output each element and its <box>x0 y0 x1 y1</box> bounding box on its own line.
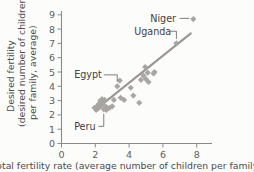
x-tick-8: 8 <box>194 144 200 161</box>
data-point-marker <box>130 92 136 98</box>
annotation-egypt: Egypt <box>74 69 117 82</box>
x-tick-label: 4 <box>126 149 132 160</box>
annotation-label: Peru <box>74 121 95 132</box>
y-tick-4: 4 <box>49 81 62 92</box>
y-tick-label: 2 <box>49 109 55 120</box>
annotation-label: Egypt <box>74 69 102 80</box>
x-tick-0: 0 <box>58 144 64 161</box>
y-axis: 0 1 2 3 4 5 6 <box>49 9 62 149</box>
y-tick-label: 1 <box>49 124 55 135</box>
data-point-marker <box>136 100 142 106</box>
y-tick-label: 0 <box>49 138 55 149</box>
data-point-marker <box>190 16 196 22</box>
y-tick-7: 7 <box>49 38 62 49</box>
y-tick-label: 3 <box>49 95 55 106</box>
y-axis-title-line-1: Desired fertility <box>5 40 16 112</box>
y-tick-label: 5 <box>49 67 55 78</box>
annotation-niger: Niger <box>150 13 189 24</box>
y-tick-label: 8 <box>49 24 55 35</box>
y-tick-label: 7 <box>49 38 55 49</box>
x-tick-label: 8 <box>194 149 200 160</box>
x-tick-label: 2 <box>92 149 98 160</box>
y-tick-1: 1 <box>49 124 62 135</box>
y-tick-2: 2 <box>49 109 62 120</box>
x-axis-title: Total fertility rate (average number of … <box>0 160 254 171</box>
y-axis-title-line-3: per family, average) <box>27 25 38 120</box>
x-tick-label: 6 <box>160 149 166 160</box>
y-tick-6: 6 <box>49 52 62 63</box>
y-tick-label: 6 <box>49 52 55 63</box>
y-axis-title-group: Desired fertility (desired number of chi… <box>5 0 38 127</box>
x-tick-4: 4 <box>126 144 132 161</box>
annotation-leader-line <box>98 114 103 127</box>
y-tick-3: 3 <box>49 95 62 106</box>
data-point-marker <box>114 83 120 89</box>
y-tick-0: 0 <box>49 138 62 149</box>
x-tick-6: 6 <box>160 144 166 161</box>
y-axis-title-line-2: (desired number of children <box>16 0 27 127</box>
annotation-label: Uganda <box>134 26 171 37</box>
y-tick-5: 5 <box>49 67 62 78</box>
annotation-label: Niger <box>150 13 176 24</box>
x-axis: 0 2 4 6 8 Total fertility rate (average … <box>0 144 254 172</box>
y-tick-8: 8 <box>49 24 62 35</box>
annotation-peru: Peru <box>74 114 104 132</box>
y-tick-9: 9 <box>49 9 62 20</box>
x-tick-2: 2 <box>92 144 98 161</box>
annotation-leader-line <box>104 75 118 82</box>
annotations-layer: NigerUgandaEgyptPeru <box>74 13 189 132</box>
y-tick-label: 4 <box>49 81 55 92</box>
fertility-scatter-chart: Desired fertility (desired number of chi… <box>0 0 254 172</box>
chart-canvas: Desired fertility (desired number of chi… <box>0 0 254 172</box>
data-point-marker <box>128 85 134 91</box>
annotation-uganda: Uganda <box>134 26 176 39</box>
x-tick-label: 0 <box>58 149 64 160</box>
y-tick-label: 9 <box>49 9 55 20</box>
